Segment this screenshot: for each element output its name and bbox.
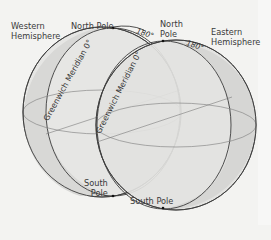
north-pole-right-line2: Pole	[160, 30, 183, 40]
north-pole-label-left: North Pole	[71, 22, 113, 32]
south-pole-left-line2: Pole	[84, 189, 108, 199]
eastern-label-line2: Hemisphere	[211, 38, 260, 48]
western-hemisphere-label: Western Hemisphere	[11, 22, 60, 41]
western-label-line2: Hemisphere	[11, 32, 60, 42]
south-pole-label-right: South Pole	[130, 197, 173, 207]
south-pole-label-left: South Pole	[84, 179, 108, 198]
north-pole-label-right: North Pole	[160, 20, 183, 39]
eastern-hemisphere-globe	[96, 40, 256, 210]
eastern-hemisphere-label: Eastern Hemisphere	[211, 28, 260, 47]
